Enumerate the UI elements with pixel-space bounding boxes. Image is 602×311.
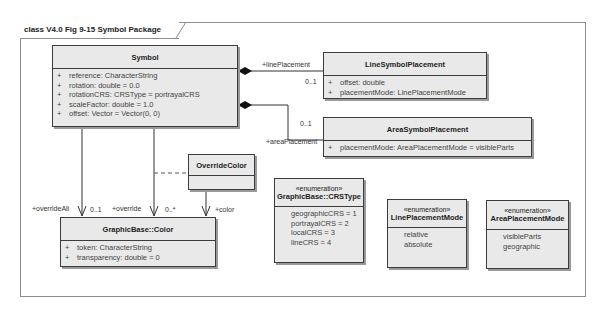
class-header: OverrideColor — [189, 155, 254, 176]
role-area-placement: +areaPlacement — [266, 138, 317, 145]
class-override-color[interactable]: OverrideColor — [188, 154, 255, 190]
attribute-list: +reference: CharacterString +rotation: d… — [53, 69, 237, 121]
attribute-list: +token: CharacterString +transparency: d… — [61, 241, 215, 264]
attribute: +rotation: double = 0.0 — [57, 81, 233, 91]
class-graphicbase-color[interactable]: GraphicBase::Color +token: CharacterStri… — [60, 217, 216, 267]
enum-literal: localCRS = 3 — [291, 228, 359, 238]
class-name: AreaSymbolPlacement — [324, 125, 531, 134]
enum-crs-type[interactable]: «enumeration» GraphicBase::CRSType geogr… — [274, 178, 364, 263]
stereotype: «enumeration» — [487, 207, 568, 214]
enum-literal: geographic — [503, 242, 564, 252]
multiplicity-override: 0..* — [165, 206, 176, 213]
attribute: +transparency: double = 0 — [65, 253, 211, 263]
stereotype: «enumeration» — [275, 185, 363, 192]
enum-header: «enumeration» LinePlacementMode — [388, 200, 466, 228]
enum-literal: portrayalCRS = 2 — [291, 219, 359, 229]
role-line-placement: +linePlacement — [262, 61, 310, 68]
literal-list: geographicCRS = 1 portrayalCRS = 2 local… — [275, 207, 363, 249]
attribute: +token: CharacterString — [65, 243, 211, 253]
enum-literal: absolute — [404, 240, 462, 250]
enum-literal: relative — [404, 230, 462, 240]
attribute: +offset: double — [328, 78, 482, 88]
role-override: +override — [112, 205, 141, 212]
enum-literal: lineCRS = 4 — [291, 238, 359, 248]
attribute-list: +placementMode: AreaPlacementMode = visi… — [324, 141, 531, 155]
multiplicity-line-placement: 0..1 — [305, 78, 317, 85]
attribute: +scaleFactor: double = 1.0 — [57, 100, 233, 110]
enum-name: LinePlacementMode — [388, 213, 466, 222]
enum-literal: geographicCRS = 1 — [291, 209, 359, 219]
class-header: LineSymbolPlacement — [324, 53, 486, 76]
attribute: +placementMode: AreaPlacementMode = visi… — [328, 143, 527, 153]
attribute: +placementMode: LinePlacementMode — [328, 88, 482, 98]
class-name: LineSymbolPlacement — [324, 60, 486, 69]
class-header: Symbol — [53, 46, 237, 69]
attribute-list: +offset: double +placementMode: LinePlac… — [324, 76, 486, 99]
enum-header: «enumeration» GraphicBase::CRSType — [275, 179, 363, 207]
enum-line-placement-mode[interactable]: «enumeration» LinePlacementMode relative… — [387, 199, 467, 268]
enum-name: GraphicBase::CRSType — [275, 192, 363, 201]
enum-literal: visibleParts — [503, 232, 564, 242]
stereotype: «enumeration» — [388, 206, 466, 213]
class-line-symbol-placement[interactable]: LineSymbolPlacement +offset: double +pla… — [323, 52, 487, 99]
literal-list: relative absolute — [388, 228, 466, 251]
attribute: +rotationCRS: CRSType = portrayalCRS — [57, 90, 233, 100]
enum-header: «enumeration» AreaPlacementMode — [487, 201, 568, 230]
attribute: +offset: Vector = Vector(0, 0) — [57, 109, 233, 119]
literal-list: visibleParts geographic — [487, 230, 568, 253]
class-header: GraphicBase::Color — [61, 218, 215, 241]
enum-area-placement-mode[interactable]: «enumeration» AreaPlacementMode visibleP… — [486, 200, 569, 269]
class-name: OverrideColor — [189, 161, 254, 170]
role-color: +color — [215, 206, 234, 213]
class-header: AreaSymbolPlacement — [324, 118, 531, 141]
class-area-symbol-placement[interactable]: AreaSymbolPlacement +placementMode: Area… — [323, 117, 532, 157]
multiplicity-override-all: 0..1 — [90, 206, 102, 213]
class-symbol[interactable]: Symbol +reference: CharacterString +rota… — [52, 45, 238, 127]
class-name: Symbol — [53, 53, 237, 62]
enum-name: AreaPlacementMode — [487, 214, 568, 223]
attribute: +reference: CharacterString — [57, 71, 233, 81]
class-name: GraphicBase::Color — [61, 225, 215, 234]
role-override-all: +overrideAll — [32, 205, 69, 212]
multiplicity-area-placement: 0..1 — [300, 120, 312, 127]
